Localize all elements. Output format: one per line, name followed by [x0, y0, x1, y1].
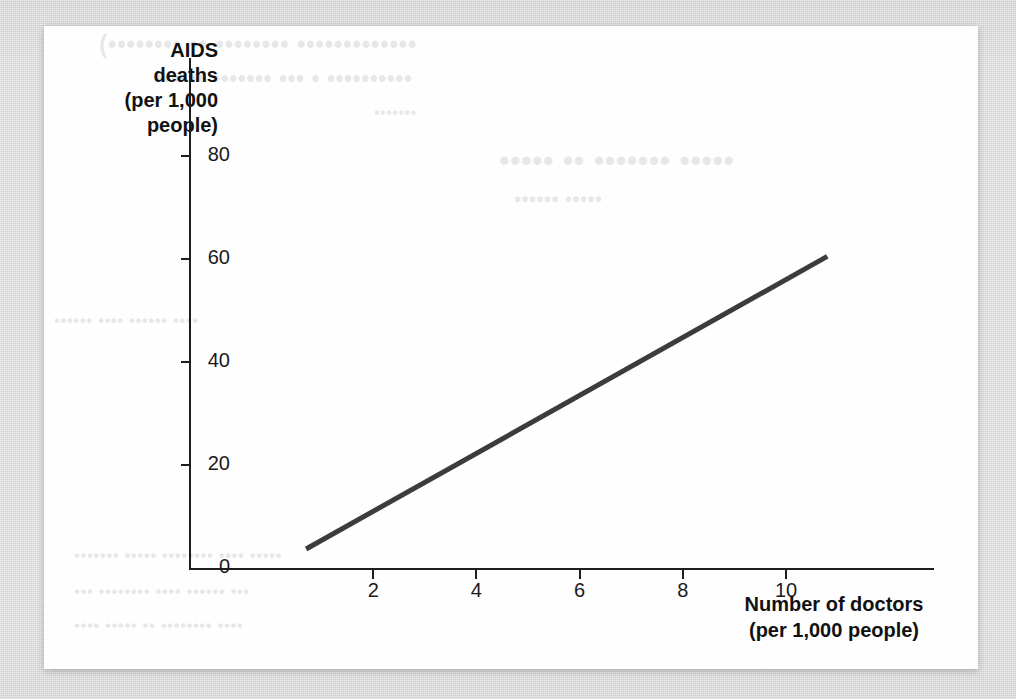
- y-axis-line: [189, 58, 191, 570]
- x-axis-line: [189, 568, 934, 570]
- y-tick-label: 20: [170, 452, 230, 475]
- x-axis-title-line-1: Number of doctors: [704, 591, 964, 617]
- figure-card: (•••••••• •• •••••••• ••••••••••••• ••••…: [44, 26, 978, 669]
- x-tick-mark: [682, 570, 684, 579]
- x-tick-label: 4: [456, 579, 496, 602]
- x-tick-mark: [785, 570, 787, 579]
- y-axis-title-line-4: people): [44, 113, 218, 138]
- y-axis-title-line-1: AIDS: [44, 38, 218, 63]
- x-tick-mark: [579, 570, 581, 579]
- page-background: (•••••••• •• •••••••• ••••••••••••• ••••…: [0, 0, 1016, 699]
- x-tick-label: 2: [353, 579, 393, 602]
- y-tick-label: 0: [170, 555, 230, 578]
- x-tick-mark: [475, 570, 477, 579]
- y-tick-label: 60: [170, 246, 230, 269]
- x-axis-title-line-2: (per 1,000 people): [704, 617, 964, 643]
- chart-plot-area: AIDS deaths (per 1,000 people) 020406080…: [44, 26, 978, 669]
- series-line: [306, 256, 827, 549]
- y-axis-title: AIDS deaths (per 1,000 people): [44, 38, 218, 138]
- x-tick-label: 6: [560, 579, 600, 602]
- x-axis-title: Number of doctors (per 1,000 people): [704, 591, 964, 643]
- y-tick-label: 80: [170, 143, 230, 166]
- y-axis-title-line-2: deaths: [44, 63, 218, 88]
- y-tick-label: 40: [170, 349, 230, 372]
- x-tick-mark: [372, 570, 374, 579]
- y-axis-title-line-3: (per 1,000: [44, 88, 218, 113]
- x-tick-label: 8: [663, 579, 703, 602]
